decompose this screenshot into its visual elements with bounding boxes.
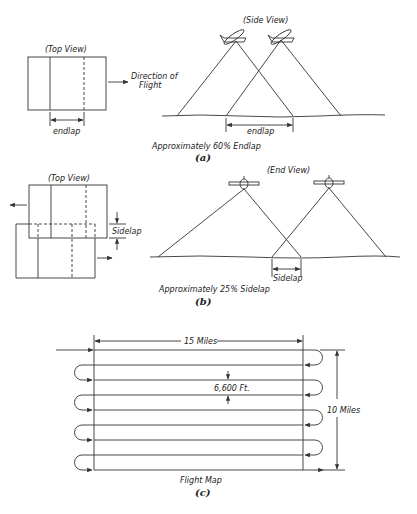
- airplane-end-icon: [229, 175, 344, 189]
- sidelap-top-view: (Top View) Sidelap: [10, 174, 142, 278]
- camera-cone-2: [226, 40, 341, 116]
- turn-loop: [303, 350, 323, 365]
- caption-a: Approximately 60% Endlap: [151, 142, 261, 151]
- top-view-label-a: (Top View): [45, 45, 87, 54]
- airplane-side-icon: [220, 28, 294, 47]
- ground-line-end: [150, 256, 400, 258]
- width-label: 15 Miles: [184, 337, 217, 346]
- aerial-photography-overlap-diagram: (Top View) endlap Direction of Flight (S…: [0, 0, 417, 514]
- flight-map: 15 Miles 6,600 Ft. 10 Miles: [56, 335, 360, 498]
- sidelap-end-view: (End View) Sidelap Approximately 25% Sid…: [150, 166, 400, 307]
- endlap-label-side: endlap: [247, 127, 274, 136]
- height-label: 10 Miles: [327, 406, 360, 415]
- direction-label-line2: Flight: [139, 81, 162, 90]
- sidelap-label-end: Sidelap: [273, 274, 303, 283]
- endlap-label-top: endlap: [53, 127, 80, 136]
- ground-line: [162, 115, 385, 117]
- photo-footprint-rect: [28, 57, 106, 110]
- endlap-top-view: (Top View) endlap Direction of Flight: [28, 45, 179, 136]
- top-view-label-b: (Top View): [48, 174, 90, 183]
- spacing-label: 6,600 Ft.: [214, 384, 250, 393]
- side-view-label: (Side View): [243, 16, 288, 25]
- camera-cone-end-2: [272, 188, 386, 257]
- endlap-side-view: (Side View) endlap Approximately 60% End…: [151, 16, 385, 163]
- camera-cone-end-1: [158, 189, 301, 257]
- end-view-label: (End View): [267, 166, 310, 175]
- lower-strip-rect: [16, 224, 95, 278]
- figure-letter-c: (c): [195, 487, 211, 498]
- caption-c: Flight Map: [180, 476, 222, 485]
- sidelap-label-top: Sidelap: [112, 227, 142, 236]
- figure-letter-b: (b): [195, 296, 212, 307]
- caption-b: Approximately 25% Sidelap: [158, 285, 270, 294]
- direction-label-line1: Direction of: [131, 72, 179, 81]
- figure-letter-a: (a): [195, 152, 211, 163]
- camera-cone-1: [177, 41, 293, 116]
